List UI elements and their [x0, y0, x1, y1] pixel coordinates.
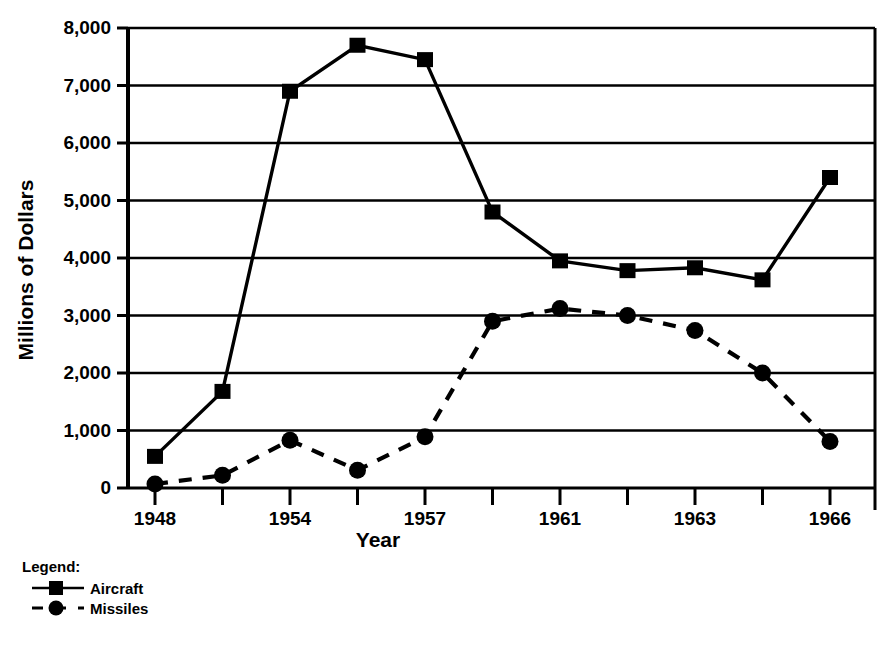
data-point-marker[interactable] — [755, 272, 771, 287]
data-point-marker[interactable] — [619, 307, 636, 324]
data-point-marker[interactable] — [822, 433, 839, 450]
legend-label-missiles: Missiles — [90, 600, 148, 617]
x-tick-label: 1961 — [515, 508, 605, 530]
y-tick-label: 1,000 — [11, 420, 111, 442]
solid-line-square-marker-icon — [30, 579, 86, 597]
data-point-marker[interactable] — [484, 313, 501, 330]
legend: Legend: Aircraft Missiles — [22, 558, 148, 618]
x-axis-title: Year — [278, 528, 478, 552]
chart-figure: Millions of Dollars 01,0002,0003,0004,00… — [0, 0, 895, 653]
data-point-marker[interactable] — [349, 462, 366, 479]
data-point-marker[interactable] — [350, 38, 366, 53]
data-point-marker[interactable] — [754, 365, 771, 382]
y-tick-label: 4,000 — [11, 247, 111, 269]
x-tick-label: 1966 — [785, 508, 875, 530]
legend-item-aircraft: Aircraft — [30, 578, 148, 598]
y-tick-label: 8,000 — [11, 17, 111, 39]
data-point-marker[interactable] — [214, 467, 231, 484]
dashed-line-circle-marker-icon — [30, 599, 86, 617]
y-tick-label: 0 — [11, 477, 111, 499]
y-tick-label: 6,000 — [11, 132, 111, 154]
x-tick-label: 1957 — [380, 508, 470, 530]
series-line-aircraft — [155, 45, 830, 456]
data-point-marker[interactable] — [552, 253, 568, 268]
data-point-marker[interactable] — [147, 475, 164, 492]
series-line-missiles — [155, 309, 830, 484]
plot-area — [0, 0, 895, 653]
data-point-marker[interactable] — [687, 322, 704, 339]
data-point-marker[interactable] — [147, 449, 163, 464]
data-point-marker[interactable] — [417, 428, 434, 445]
y-tick-label: 2,000 — [11, 362, 111, 384]
data-point-marker[interactable] — [282, 84, 298, 99]
data-point-marker[interactable] — [620, 263, 636, 278]
data-point-marker[interactable] — [215, 384, 231, 399]
x-tick-label: 1954 — [245, 508, 335, 530]
data-point-marker[interactable] — [485, 205, 501, 220]
data-point-marker[interactable] — [552, 300, 569, 317]
data-point-marker[interactable] — [822, 170, 838, 185]
x-tick-label: 1963 — [650, 508, 740, 530]
legend-heading: Legend: — [22, 558, 148, 575]
data-point-marker[interactable] — [282, 432, 299, 449]
data-point-marker[interactable] — [417, 52, 433, 67]
y-tick-label: 3,000 — [11, 305, 111, 327]
y-tick-label: 7,000 — [11, 75, 111, 97]
legend-item-missiles: Missiles — [30, 598, 148, 618]
legend-label-aircraft: Aircraft — [90, 580, 143, 597]
data-point-marker[interactable] — [687, 260, 703, 275]
x-tick-label: 1948 — [110, 508, 200, 530]
y-tick-label: 5,000 — [11, 190, 111, 212]
